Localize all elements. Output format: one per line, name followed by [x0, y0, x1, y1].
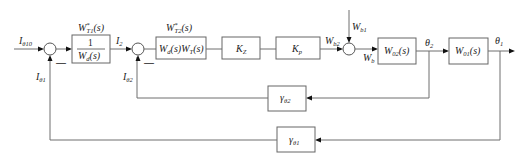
- minus-sign-1: —: [56, 57, 66, 68]
- arrowhead-icon: [38, 47, 44, 52]
- minus-sign-2: —: [144, 57, 154, 68]
- label-inner-feedback: Iθ2: [122, 71, 134, 83]
- summing-junction-1: [44, 43, 56, 55]
- arrowhead-icon: [315, 138, 321, 143]
- control-block-diagram: Iθ10 Iθ1 — W*T1(s) 1 Wd(s) I2 Iθ2 — W*T2…: [0, 0, 522, 161]
- block-wt2-body: Wd(s)WT(s): [159, 43, 204, 55]
- arrowhead-icon: [347, 37, 352, 43]
- summing-junction-2: [132, 43, 144, 55]
- label-outer-feedback: Iθ1: [35, 71, 46, 83]
- label-i2: I2: [115, 35, 123, 47]
- label-wb1: Wb1: [352, 21, 367, 33]
- label-wb2: Wb2: [325, 35, 341, 47]
- arrowhead-icon: [136, 55, 141, 61]
- arrowhead-icon: [48, 55, 53, 61]
- block-wt2-title: W*T2(s): [166, 21, 193, 34]
- block-wt1-numerator: 1: [88, 38, 93, 48]
- label-input-current: Iθ10: [18, 35, 33, 47]
- arrowhead-icon: [126, 47, 132, 52]
- summing-junction-3: [343, 43, 355, 55]
- arrowhead-icon: [66, 47, 72, 52]
- label-theta2: θ2: [425, 37, 434, 49]
- arrowhead-icon: [509, 49, 515, 54]
- block-wt1-title: W*T1(s): [78, 21, 105, 34]
- label-theta1: θ1: [495, 35, 503, 47]
- arrowhead-icon: [337, 47, 343, 52]
- arrowhead-icon: [306, 96, 312, 101]
- arrowhead-icon: [372, 47, 378, 52]
- block-wt1-denominator: Wd(s): [78, 50, 101, 62]
- arrowhead-icon: [443, 49, 449, 54]
- label-wb: Wb: [363, 52, 375, 64]
